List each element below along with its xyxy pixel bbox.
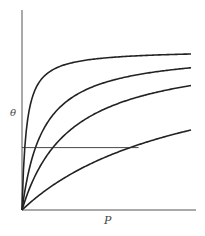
x-axis-label: P xyxy=(103,214,112,227)
langmuir-isotherm-chart: θ P xyxy=(0,0,205,236)
isotherm-curve-4 xyxy=(22,130,191,210)
y-axis-label: θ xyxy=(10,107,16,118)
curves-group xyxy=(22,54,191,210)
isotherm-curve-1 xyxy=(22,54,191,210)
